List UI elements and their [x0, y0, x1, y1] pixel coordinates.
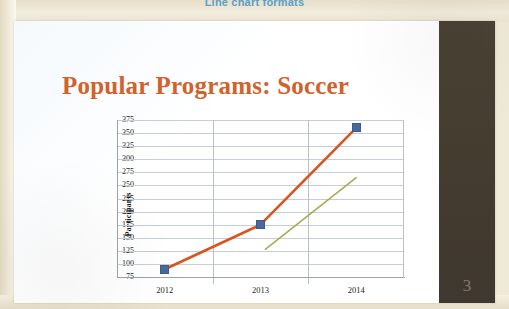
- scanned-page: Line chart formats Popular Programs: Soc…: [0, 0, 509, 309]
- chart-series-lines: [117, 120, 404, 278]
- slide-page-number: 3: [439, 277, 495, 294]
- chart-x-tick-label: 2013: [231, 285, 291, 295]
- document-section-heading: Line chart formats: [0, 0, 509, 6]
- line-chart: Participants 375350325300275250225200175…: [74, 114, 419, 299]
- chart-data-point-marker: [256, 220, 265, 229]
- chart-data-point-marker: [160, 265, 169, 274]
- chart-x-tick-label: 2012: [135, 285, 195, 295]
- chart-x-tick-label: 2014: [326, 285, 386, 295]
- slide-title: Popular Programs: Soccer: [62, 72, 349, 100]
- slide-accent-sidebar: 3: [439, 21, 495, 303]
- presentation-slide: Popular Programs: Soccer Participants 37…: [14, 21, 495, 303]
- chart-data-point-marker: [352, 123, 361, 132]
- chart-plot-area: [117, 120, 404, 277]
